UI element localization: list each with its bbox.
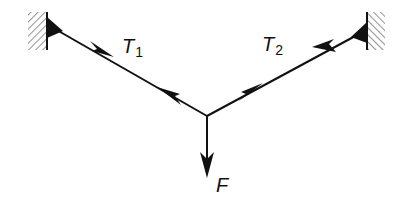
force-diagram: T1 T2 F bbox=[0, 0, 405, 206]
t1-arrow-lower-icon bbox=[157, 87, 181, 105]
left-wall-hatch bbox=[28, 12, 47, 50]
t1-arrow-upper-icon bbox=[90, 41, 114, 57]
t1-label: T1 bbox=[122, 36, 143, 59]
t2-label: T2 bbox=[262, 34, 283, 57]
t2-arrow-lower-icon bbox=[239, 83, 263, 101]
diagram-svg bbox=[0, 0, 405, 206]
t2-label-main: T bbox=[262, 33, 274, 55]
right-wall-hatch bbox=[367, 12, 385, 50]
f-label-main: F bbox=[216, 174, 228, 196]
right-anchor-bracket bbox=[351, 22, 367, 43]
f-label: F bbox=[216, 175, 228, 195]
t2-label-sub: 2 bbox=[275, 42, 283, 58]
t1-label-main: T bbox=[122, 35, 134, 57]
t2-arrow-upper-icon bbox=[312, 39, 336, 52]
left-anchor-bracket bbox=[47, 17, 63, 38]
t1-label-sub: 1 bbox=[135, 44, 143, 60]
right-wall-support bbox=[351, 12, 385, 50]
